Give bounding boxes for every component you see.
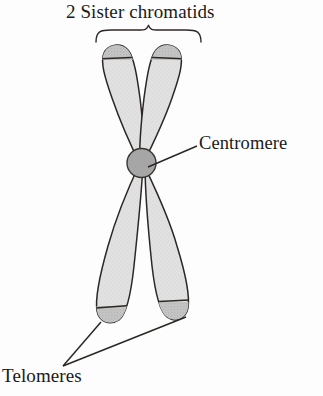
telomere-leader-line-left bbox=[63, 322, 101, 366]
lower-right-chromatid-arm bbox=[143, 163, 198, 328]
sister-chromatids-brace bbox=[96, 26, 201, 43]
telomeres-label: Telomeres bbox=[2, 366, 82, 385]
centromere-label: Centromere bbox=[199, 134, 287, 153]
telomere-cap bbox=[144, 300, 198, 328]
centromere bbox=[127, 149, 156, 178]
chromosome-illustration bbox=[0, 0, 323, 396]
sister-chromatids-label: 2 Sister chromatids bbox=[66, 2, 215, 21]
telomere-cap bbox=[132, 38, 188, 60]
telomere-cap bbox=[96, 38, 152, 60]
chromosome-diagram: 2 Sister chromatids Centromere Telomeres bbox=[0, 0, 323, 396]
lower-left-chromatid-arm bbox=[88, 163, 143, 332]
telomere-leader-line-right bbox=[63, 317, 186, 366]
centromere-leader-line bbox=[148, 146, 197, 167]
